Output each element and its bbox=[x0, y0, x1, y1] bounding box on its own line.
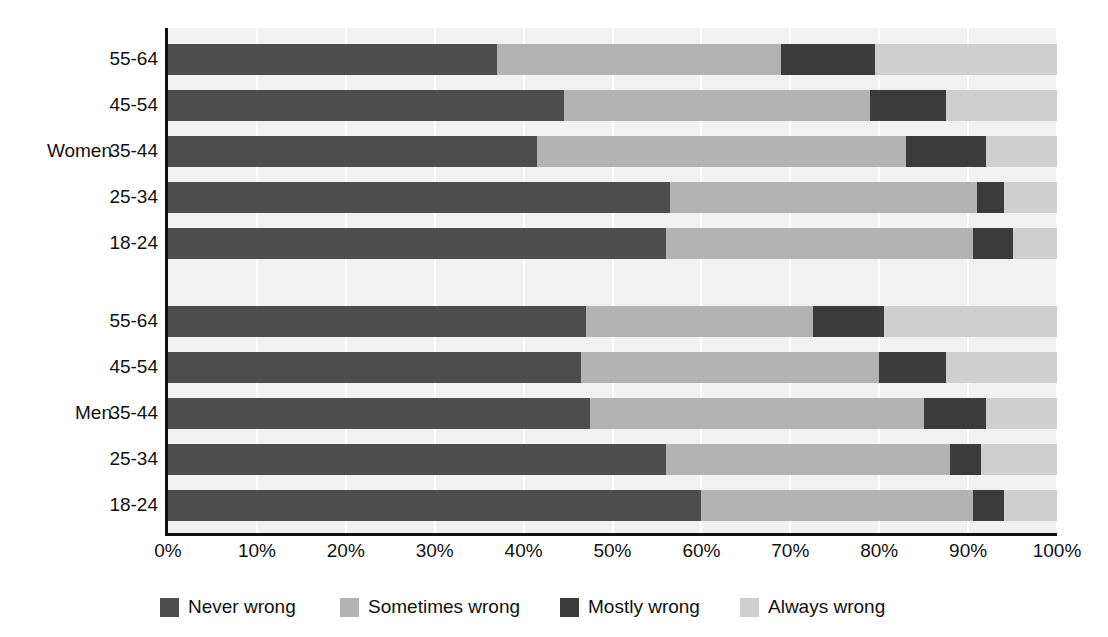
x-tick-0%: 0% bbox=[154, 540, 181, 562]
bar-segment bbox=[168, 490, 701, 521]
bar-segment bbox=[906, 136, 986, 167]
bar-segment bbox=[973, 228, 1013, 259]
x-tick-100%: 100% bbox=[1033, 540, 1082, 562]
bar-segment bbox=[884, 306, 1057, 337]
bar-segment bbox=[586, 306, 813, 337]
bar-segment bbox=[701, 490, 972, 521]
bar-segment bbox=[981, 444, 1057, 475]
bar-row bbox=[168, 398, 1057, 429]
x-tick-90%: 90% bbox=[949, 540, 987, 562]
legend-swatch-icon bbox=[740, 598, 759, 617]
category-label-column: 55-6445-5435-4425-3418-2455-6445-5435-44… bbox=[0, 28, 158, 533]
bar-segment bbox=[946, 352, 1057, 383]
bar-row bbox=[168, 352, 1057, 383]
bar-segment bbox=[581, 352, 879, 383]
x-tick-10%: 10% bbox=[238, 540, 276, 562]
bar-segment bbox=[924, 398, 986, 429]
category-label-men-18-24: 18-24 bbox=[8, 494, 158, 516]
x-tick-60%: 60% bbox=[682, 540, 720, 562]
bar-segment bbox=[168, 306, 586, 337]
category-label-men-25-34: 25-34 bbox=[8, 448, 158, 470]
bar-segment bbox=[1004, 490, 1057, 521]
bar-segment bbox=[973, 490, 1004, 521]
legend-swatch-icon bbox=[560, 598, 579, 617]
bar-segment bbox=[168, 136, 537, 167]
legend-label: Never wrong bbox=[188, 596, 296, 618]
bar-segment bbox=[590, 398, 923, 429]
bar-segment bbox=[781, 44, 874, 75]
bar-segment bbox=[564, 90, 871, 121]
legend-label: Sometimes wrong bbox=[368, 596, 520, 618]
bar-segment bbox=[168, 444, 666, 475]
bar-segment bbox=[946, 90, 1057, 121]
bar-segment bbox=[875, 44, 1057, 75]
plot-area bbox=[168, 28, 1057, 533]
bar-segment bbox=[950, 444, 981, 475]
x-tick-80%: 80% bbox=[860, 540, 898, 562]
legend-swatch-icon bbox=[160, 598, 179, 617]
category-label-women-18-24: 18-24 bbox=[8, 232, 158, 254]
bar-segment bbox=[813, 306, 884, 337]
x-axis-tick-labels: 0%10%20%30%40%50%60%70%80%90%100% bbox=[0, 540, 1108, 568]
bar-segment bbox=[1004, 182, 1057, 213]
category-label-men-45-54: 45-54 bbox=[8, 356, 158, 378]
bar-segment bbox=[168, 90, 564, 121]
category-label-men-55-64: 55-64 bbox=[8, 310, 158, 332]
legend-label: Always wrong bbox=[768, 596, 885, 618]
x-tick-70%: 70% bbox=[771, 540, 809, 562]
category-label-women-35-44: 35-44 bbox=[8, 140, 158, 162]
bar-segment bbox=[537, 136, 906, 167]
x-tick-20%: 20% bbox=[327, 540, 365, 562]
bar-segment bbox=[977, 182, 1004, 213]
bar-segment bbox=[670, 182, 977, 213]
bar-row bbox=[168, 490, 1057, 521]
bar-segment bbox=[986, 136, 1057, 167]
bar-row bbox=[168, 306, 1057, 337]
category-label-women-25-34: 25-34 bbox=[8, 186, 158, 208]
category-label-women-55-64: 55-64 bbox=[8, 48, 158, 70]
bar-segment bbox=[666, 228, 973, 259]
bar-row bbox=[168, 136, 1057, 167]
legend-item[interactable]: Never wrong bbox=[160, 596, 296, 618]
bar-row bbox=[168, 182, 1057, 213]
bar-segment bbox=[168, 228, 666, 259]
bar-segment bbox=[168, 398, 590, 429]
x-axis-line bbox=[165, 533, 1057, 536]
legend-item[interactable]: Always wrong bbox=[740, 596, 885, 618]
legend-label: Mostly wrong bbox=[588, 596, 700, 618]
category-label-men-35-44: 35-44 bbox=[8, 402, 158, 424]
chart-legend: Never wrongSometimes wrongMostly wrongAl… bbox=[0, 596, 1108, 626]
bar-segment bbox=[168, 44, 497, 75]
bar-row bbox=[168, 90, 1057, 121]
bar-row bbox=[168, 44, 1057, 75]
legend-item[interactable]: Sometimes wrong bbox=[340, 596, 520, 618]
bar-segment bbox=[168, 352, 581, 383]
legend-item[interactable]: Mostly wrong bbox=[560, 596, 700, 618]
bar-row bbox=[168, 444, 1057, 475]
legend-swatch-icon bbox=[340, 598, 359, 617]
x-tick-50%: 50% bbox=[593, 540, 631, 562]
bar-segment bbox=[666, 444, 950, 475]
bar-segment bbox=[879, 352, 946, 383]
stacked-bar-chart: WomenMen 55-6445-5435-4425-3418-2455-644… bbox=[0, 0, 1108, 637]
x-tick-40%: 40% bbox=[505, 540, 543, 562]
bar-segment bbox=[1013, 228, 1057, 259]
y-axis-line bbox=[165, 28, 168, 533]
bar-row bbox=[168, 228, 1057, 259]
category-label-women-45-54: 45-54 bbox=[8, 94, 158, 116]
bar-segment bbox=[986, 398, 1057, 429]
bar-segment bbox=[168, 182, 670, 213]
x-tick-30%: 30% bbox=[416, 540, 454, 562]
bar-segment bbox=[497, 44, 781, 75]
bar-segment bbox=[870, 90, 946, 121]
